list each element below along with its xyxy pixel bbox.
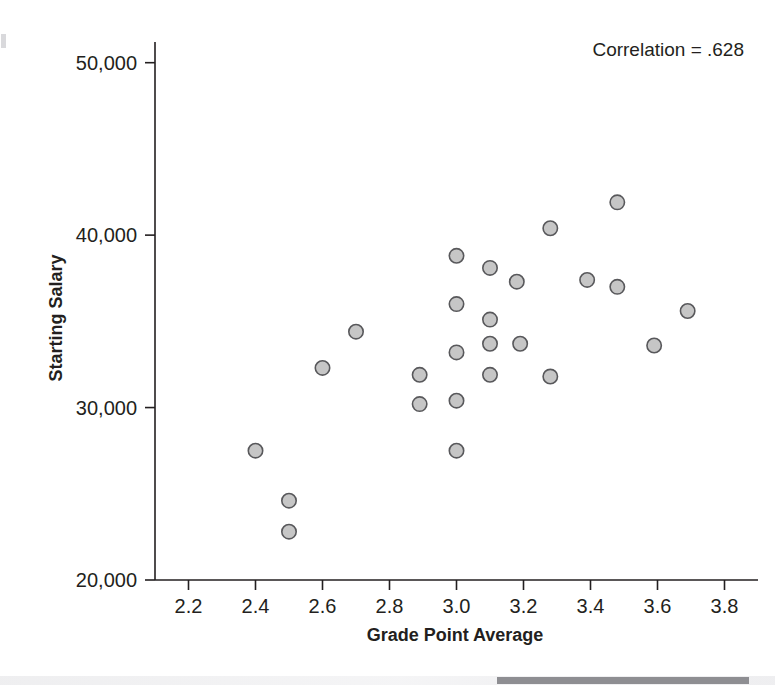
scatter-point: [483, 261, 497, 275]
scatter-point: [610, 280, 624, 294]
scatter-point: [349, 324, 363, 338]
x-tick-label: 3.2: [510, 595, 538, 617]
x-tick-label: 3.8: [711, 595, 739, 617]
x-tick-label: 3.0: [443, 595, 471, 617]
x-tick-label: 3.4: [577, 595, 605, 617]
scan-edge-bar: [497, 677, 749, 684]
y-tick-label: 20,000: [76, 569, 137, 591]
scan-artifact-left: [1, 34, 6, 48]
x-axis-title: Grade Point Average: [367, 625, 544, 645]
scatter-point: [543, 221, 557, 235]
scatter-point: [580, 273, 594, 287]
scatter-point: [483, 368, 497, 382]
x-tick-label: 3.6: [644, 595, 672, 617]
y-tick-label: 50,000: [76, 52, 137, 74]
scatter-point: [610, 195, 624, 209]
x-tick-label: 2.6: [309, 595, 337, 617]
scatter-point: [282, 525, 296, 539]
y-axis-tick-labels: 20,00030,00040,00050,000: [76, 52, 137, 591]
scatter-point: [449, 297, 463, 311]
scatter-point: [282, 493, 296, 507]
scatter-point: [483, 337, 497, 351]
x-tick-label: 2.2: [175, 595, 203, 617]
scatter-point: [647, 338, 661, 352]
scatter-point: [248, 443, 262, 457]
scatter-point: [513, 337, 527, 351]
scatter-point: [543, 369, 557, 383]
scatter-plot-figure: 20,00030,00040,00050,000 2.22.42.62.83.0…: [0, 0, 775, 685]
scatter-point: [449, 393, 463, 407]
scatter-point: [510, 274, 524, 288]
y-tick-label: 40,000: [76, 224, 137, 246]
x-tick-label: 2.4: [242, 595, 270, 617]
scatter-point: [412, 397, 426, 411]
scatter-point: [680, 304, 694, 318]
x-tick-label: 2.8: [376, 595, 404, 617]
scatter-point: [449, 443, 463, 457]
data-point-markers: [248, 195, 695, 539]
y-axis-title: Starting Salary: [46, 254, 66, 381]
scatter-point: [412, 368, 426, 382]
x-axis-tick-labels: 2.22.42.62.83.03.23.43.63.8: [175, 595, 739, 617]
x-axis-ticks: [189, 580, 725, 590]
scatter-point: [449, 345, 463, 359]
scatter-point: [449, 249, 463, 263]
y-axis-ticks: [145, 63, 155, 580]
scatter-point: [483, 312, 497, 326]
plot-canvas: 20,00030,00040,00050,000 2.22.42.62.83.0…: [0, 0, 775, 685]
correlation-annotation: Correlation = .628: [592, 39, 744, 60]
y-tick-label: 30,000: [76, 397, 137, 419]
scatter-point: [315, 361, 329, 375]
